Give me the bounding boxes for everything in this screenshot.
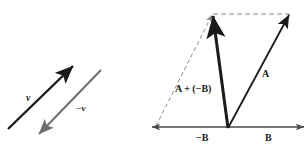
vector-resultant-label: A + (−B) xyxy=(175,83,211,95)
vector-figure: v −v −B B A + (−B) A xyxy=(0,0,308,154)
axis-label-B: B xyxy=(265,132,272,143)
axis-label-minus-B: −B xyxy=(196,132,209,143)
vector-minus-v-label: −v xyxy=(76,103,86,113)
vector-v-label: v xyxy=(26,92,31,103)
vector-A-label: A xyxy=(262,68,270,79)
